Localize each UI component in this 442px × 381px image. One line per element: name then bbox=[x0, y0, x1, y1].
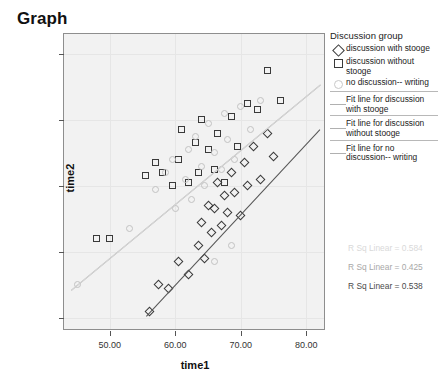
gridline-horizontal bbox=[64, 120, 324, 121]
legend-entry-label: discussion without stooge bbox=[346, 57, 438, 76]
line-swatch-icon bbox=[330, 104, 346, 105]
diamond-icon bbox=[330, 44, 346, 55]
data-point-diamond bbox=[216, 220, 226, 230]
data-point-square bbox=[221, 179, 228, 186]
y-tick-mark bbox=[59, 120, 64, 121]
scatter-plot-chart: Graph time2 time1 30.0040.0050.0060.0070… bbox=[0, 0, 442, 381]
data-point-circle bbox=[169, 156, 176, 163]
legend-entry-label: discussion with stooge bbox=[346, 44, 430, 54]
data-point-circle bbox=[237, 103, 244, 110]
data-point-circle bbox=[205, 120, 212, 127]
data-point-square bbox=[264, 67, 271, 74]
r-squared-label: R Sq Linear = 0.584 bbox=[348, 243, 423, 253]
data-point-diamond bbox=[229, 187, 239, 197]
data-point-circle bbox=[198, 163, 205, 170]
x-tick-label: 80.00 bbox=[276, 340, 336, 350]
x-tick-mark bbox=[175, 331, 176, 336]
data-point-circle bbox=[228, 242, 235, 249]
data-point-square bbox=[93, 235, 100, 242]
gridline-vertical bbox=[110, 34, 111, 329]
legend-title: Discussion group bbox=[330, 30, 438, 41]
legend-entry-label: Fit line for no discussion-- writing bbox=[346, 144, 438, 163]
x-tick-label: 70.00 bbox=[211, 340, 271, 350]
legend-entry-fit-line[interactable]: Fit line for discussion with stooge bbox=[330, 91, 438, 114]
gridline-horizontal bbox=[64, 318, 324, 319]
data-point-square bbox=[195, 169, 202, 176]
y-tick-mark bbox=[59, 54, 64, 55]
data-point-circle bbox=[211, 258, 218, 265]
data-point-square bbox=[192, 139, 199, 146]
data-point-square bbox=[198, 116, 205, 123]
data-point-square bbox=[106, 235, 113, 242]
data-point-square bbox=[228, 113, 235, 120]
data-point-diamond bbox=[226, 168, 236, 178]
data-point-diamond bbox=[193, 240, 203, 250]
data-point-diamond bbox=[197, 217, 207, 227]
circle-icon bbox=[330, 78, 346, 89]
gridline-horizontal bbox=[64, 186, 324, 187]
data-point-circle bbox=[247, 126, 254, 133]
y-tick-mark bbox=[59, 318, 64, 319]
legend-entry-fit-line[interactable]: Fit line for discussion without stooge bbox=[330, 115, 438, 138]
line-swatch-icon bbox=[330, 128, 346, 129]
data-point-square bbox=[169, 182, 176, 189]
data-point-diamond bbox=[223, 207, 233, 217]
fit-line bbox=[71, 85, 321, 291]
legend-marker-entries: discussion with stoogediscussion without… bbox=[330, 44, 438, 89]
line-swatch-icon bbox=[330, 153, 346, 154]
legend-entry-label: Fit line for discussion without stooge bbox=[346, 119, 438, 138]
x-axis-label: time1 bbox=[64, 359, 326, 371]
data-point-square bbox=[244, 100, 251, 107]
r-squared-label: R Sq Linear = 0.538 bbox=[348, 281, 423, 291]
data-point-circle bbox=[182, 176, 189, 183]
data-point-square bbox=[277, 97, 284, 104]
r-squared-label: R Sq Linear = 0.425 bbox=[348, 262, 423, 272]
data-point-diamond bbox=[256, 174, 266, 184]
x-tick-mark bbox=[241, 331, 242, 336]
square-icon bbox=[330, 57, 346, 68]
legend-entry-label: no discussion-- writing bbox=[346, 78, 429, 88]
plot-area: time2 time1 30.0040.0050.0060.0070.0050.… bbox=[63, 33, 325, 330]
data-point-diamond bbox=[220, 191, 230, 201]
data-point-circle bbox=[162, 169, 169, 176]
data-point-diamond bbox=[269, 151, 279, 161]
data-point-diamond bbox=[210, 204, 220, 214]
legend-entry-circle[interactable]: no discussion-- writing bbox=[330, 78, 438, 89]
data-point-square bbox=[254, 106, 261, 113]
legend: Discussion group discussion with stooged… bbox=[330, 30, 438, 164]
data-point-square bbox=[152, 159, 159, 166]
x-tick-label: 60.00 bbox=[145, 340, 205, 350]
data-point-diamond bbox=[242, 181, 252, 191]
y-axis-label: time2 bbox=[64, 128, 76, 228]
x-tick-mark bbox=[110, 331, 111, 336]
y-tick-mark bbox=[59, 186, 64, 187]
data-point-circle bbox=[126, 225, 133, 232]
page-title: Graph bbox=[17, 9, 68, 29]
data-point-square bbox=[214, 130, 221, 137]
data-point-circle bbox=[185, 146, 192, 153]
legend-entry-label: Fit line for discussion with stooge bbox=[346, 95, 438, 114]
data-point-circle bbox=[257, 97, 264, 104]
gridline-vertical bbox=[241, 34, 242, 329]
x-tick-label: 50.00 bbox=[80, 340, 140, 350]
gridline-vertical bbox=[306, 34, 307, 329]
legend-entry-fit-line[interactable]: Fit line for no discussion-- writing bbox=[330, 140, 438, 163]
data-point-circle bbox=[152, 186, 159, 193]
data-point-square bbox=[234, 143, 241, 150]
gridline-horizontal bbox=[64, 252, 324, 253]
data-point-square bbox=[175, 156, 182, 163]
data-point-circle bbox=[188, 196, 195, 203]
data-point-circle bbox=[224, 136, 231, 143]
x-tick-mark bbox=[306, 331, 307, 336]
legend-entry-square[interactable]: discussion without stooge bbox=[330, 57, 438, 76]
data-point-circle bbox=[192, 133, 199, 140]
gridline-horizontal bbox=[64, 54, 324, 55]
data-point-square bbox=[142, 172, 149, 179]
data-point-diamond bbox=[206, 227, 216, 237]
legend-line-entries: Fit line for discussion with stoogeFit l… bbox=[330, 91, 438, 163]
legend-entry-diamond[interactable]: discussion with stooge bbox=[330, 44, 438, 55]
data-point-square bbox=[178, 126, 185, 133]
y-tick-mark bbox=[59, 252, 64, 253]
data-point-circle bbox=[221, 110, 228, 117]
data-point-circle bbox=[211, 149, 218, 156]
